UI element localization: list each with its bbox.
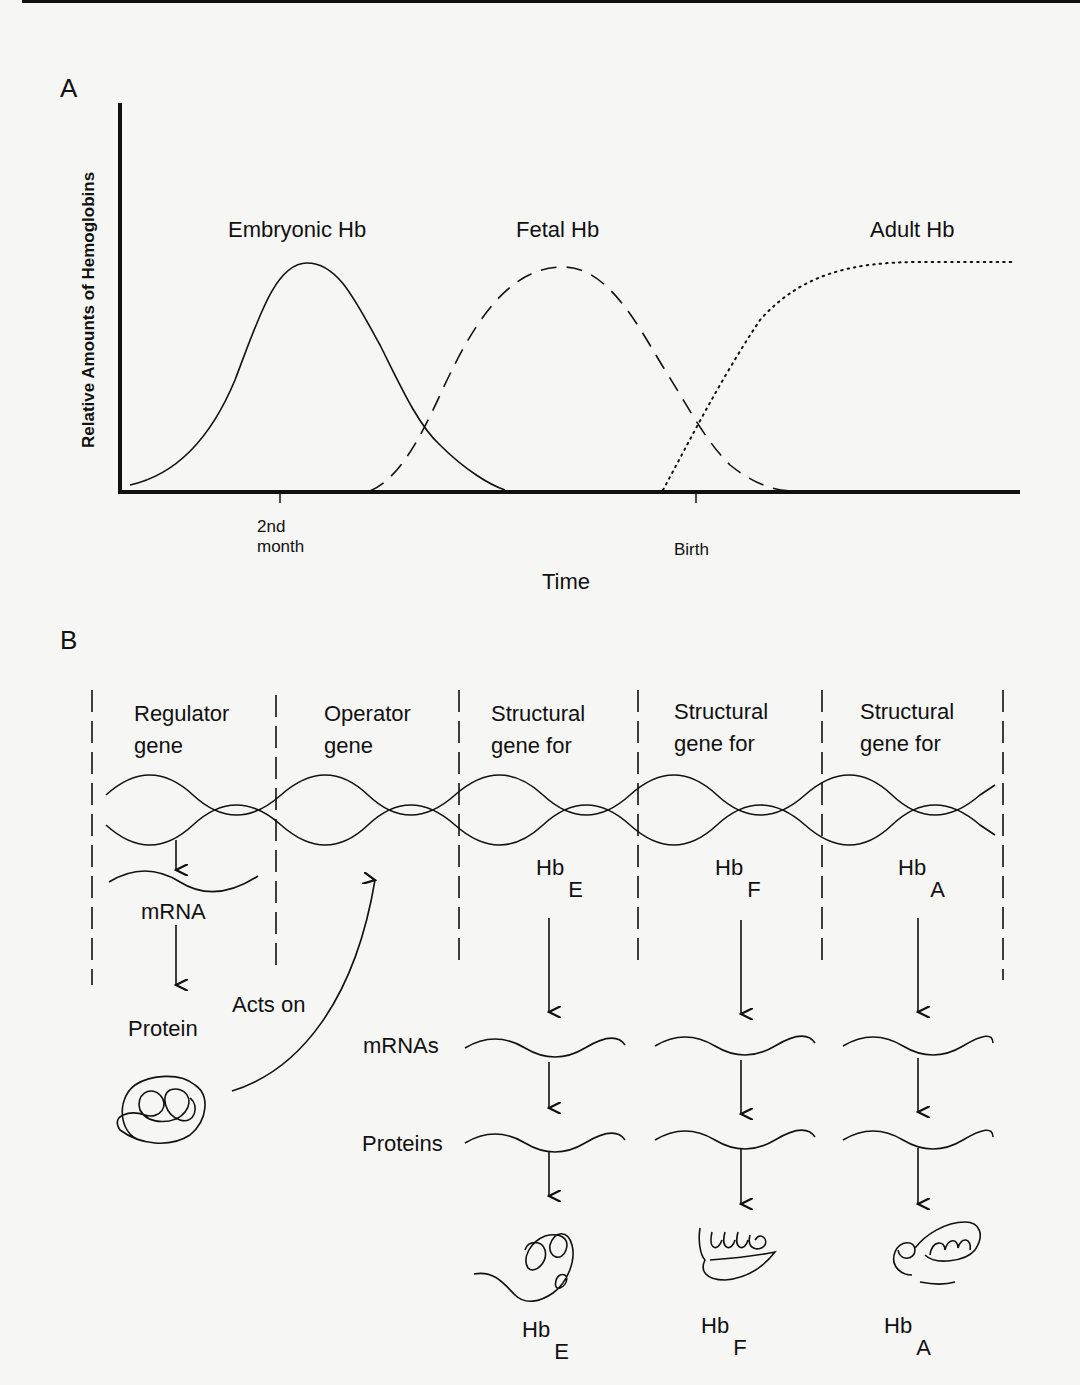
- gene-hb-f-name: HbF: [715, 856, 757, 880]
- hb-text: Hb: [884, 1313, 912, 1338]
- embryonic-hb-label: Embryonic Hb: [228, 218, 366, 242]
- hb-text: Hb: [522, 1317, 550, 1342]
- structural-pathways: [465, 918, 993, 1204]
- product-hb-f-label: HbF: [701, 1314, 743, 1338]
- product-hb-a-label: HbA: [884, 1314, 927, 1338]
- gene-label-line1: Regulator: [134, 698, 229, 730]
- regulator-protein-label: Protein: [128, 1017, 198, 1041]
- tick-label-birth: Birth: [674, 540, 709, 560]
- adult-hb-curve: [663, 262, 1013, 490]
- hb-subscript: F: [747, 877, 760, 902]
- gene-label-line1: Structural: [491, 698, 585, 730]
- panel-a-letter: A: [60, 74, 77, 103]
- tick-label-line1: 2nd: [257, 517, 304, 537]
- hb-text: Hb: [536, 855, 564, 880]
- regulator-gene-label: Regulator gene: [134, 698, 229, 762]
- mrnas-row-label: mRNAs: [363, 1034, 439, 1058]
- gene-label-line2: gene for: [674, 728, 768, 760]
- hb-subscript: A: [930, 877, 945, 902]
- regulator-mrna-strand: [109, 871, 258, 892]
- acts-on-arrow: [232, 880, 375, 1091]
- fetal-hb-curve: [370, 267, 790, 491]
- hb-f-protein-shape: [699, 1228, 775, 1280]
- tick-label-line2: month: [257, 537, 304, 557]
- hb-subscript: E: [554, 1339, 569, 1364]
- panel-b-letter: B: [60, 626, 77, 655]
- gene-label-line2: gene for: [860, 728, 954, 760]
- regulator-mrna-label: mRNA: [141, 900, 206, 924]
- gene-hb-a-name: HbA: [898, 856, 941, 880]
- panel-b-diagram: [92, 690, 1003, 1301]
- hb-subscript: E: [568, 877, 583, 902]
- panel-a-chart: [118, 103, 1020, 503]
- hb-text: Hb: [898, 855, 926, 880]
- tick-label-2nd-month: 2nd month: [257, 517, 304, 558]
- structural-gene-hb-f-label: Structural gene for: [674, 696, 768, 760]
- gene-label-line1: Structural: [860, 696, 954, 728]
- structural-gene-hb-a-label: Structural gene for: [860, 696, 954, 760]
- gene-label-line2: gene: [134, 730, 229, 762]
- gene-label-line1: Operator: [324, 698, 411, 730]
- proteins-row-label: Proteins: [362, 1132, 443, 1156]
- gene-label-line2: gene: [324, 730, 411, 762]
- hb-e-protein-shape: [474, 1234, 573, 1301]
- hb-subscript: F: [733, 1335, 746, 1360]
- operator-gene-label: Operator gene: [324, 698, 411, 762]
- figure-canvas: [0, 0, 1080, 1385]
- product-hb-e-label: HbE: [522, 1318, 565, 1342]
- structural-gene-hb-e-label: Structural gene for: [491, 698, 585, 762]
- acts-on-label: Acts on: [232, 993, 305, 1017]
- regulator-protein-blob: [117, 1076, 205, 1143]
- gene-label-line1: Structural: [674, 696, 768, 728]
- gene-hb-e-name: HbE: [536, 856, 579, 880]
- fetal-hb-label: Fetal Hb: [516, 218, 599, 242]
- hb-a-protein-shape: [894, 1222, 981, 1284]
- hb-subscript: A: [916, 1335, 931, 1360]
- hb-text: Hb: [715, 855, 743, 880]
- y-axis-label: Relative Amounts of Hemoglobins: [80, 172, 99, 448]
- x-axis-title: Time: [542, 570, 590, 594]
- hb-text: Hb: [701, 1313, 729, 1338]
- gene-label-line2: gene for: [491, 730, 585, 762]
- dna-double-helix: [106, 775, 995, 845]
- adult-hb-label: Adult Hb: [870, 218, 954, 242]
